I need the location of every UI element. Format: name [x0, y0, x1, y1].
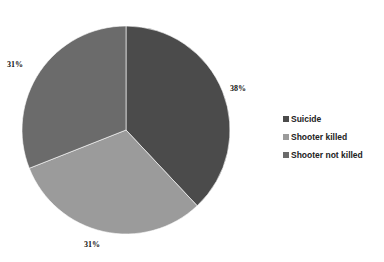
- legend: Suicide Shooter killed Shooter not kille…: [283, 110, 363, 164]
- data-label-shooter-not-killed: 31%: [7, 60, 23, 69]
- legend-swatch-suicide: [283, 116, 289, 122]
- legend-label: Suicide: [291, 114, 321, 124]
- legend-swatch-shooter-not-killed: [283, 152, 289, 158]
- data-label-shooter-killed: 31%: [84, 240, 100, 249]
- data-label-suicide: 38%: [230, 84, 246, 93]
- legend-swatch-shooter-killed: [283, 134, 289, 140]
- legend-label: Shooter not killed: [291, 150, 363, 160]
- legend-item-suicide: Suicide: [283, 110, 363, 128]
- legend-item-shooter-not-killed: Shooter not killed: [283, 146, 363, 164]
- pie-slices: [22, 26, 230, 234]
- legend-label: Shooter killed: [291, 132, 347, 142]
- legend-item-shooter-killed: Shooter killed: [283, 128, 363, 146]
